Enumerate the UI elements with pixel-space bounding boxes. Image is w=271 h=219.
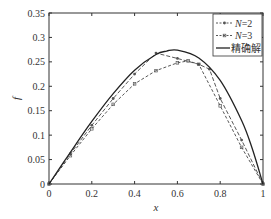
line-chart: 00.20.40.60.8100.050.10.150.20.250.30.35… bbox=[0, 0, 271, 219]
x-tick-label: 0.8 bbox=[214, 188, 227, 199]
y-tick-label: 0.05 bbox=[28, 154, 46, 165]
x-tick-label: 0.6 bbox=[171, 188, 184, 199]
x-tick-label: 0 bbox=[47, 188, 52, 199]
series-n-3 bbox=[48, 60, 265, 186]
x-tick-label: 1 bbox=[261, 188, 266, 199]
y-tick-label: 0.35 bbox=[28, 8, 46, 19]
series-exact-solution bbox=[49, 50, 263, 184]
legend-label: 精确解 bbox=[231, 42, 261, 54]
y-tick-label: 0.2 bbox=[33, 81, 46, 92]
legend: N=2N=3精确解 bbox=[213, 14, 262, 56]
marker-dot bbox=[112, 97, 115, 100]
x-tick-label: 0.2 bbox=[86, 188, 99, 199]
x-tick-label: 0.4 bbox=[128, 188, 141, 199]
marker-dot bbox=[133, 73, 136, 76]
legend-label: N=2 bbox=[234, 18, 252, 29]
marker-dot bbox=[219, 97, 222, 100]
marker-dot bbox=[90, 124, 93, 127]
marker-dot bbox=[176, 57, 179, 60]
y-axis-label: f bbox=[10, 95, 22, 100]
y-tick-label: 0.3 bbox=[33, 32, 46, 43]
legend-label: N=3 bbox=[234, 30, 252, 41]
y-tick-label: 0.1 bbox=[33, 130, 46, 141]
x-axis-label: x bbox=[153, 201, 159, 213]
y-tick-label: 0.25 bbox=[28, 56, 46, 67]
y-tick-label: 0 bbox=[40, 179, 45, 190]
y-tick-label: 0.15 bbox=[28, 105, 46, 116]
marker-dot bbox=[240, 139, 243, 142]
